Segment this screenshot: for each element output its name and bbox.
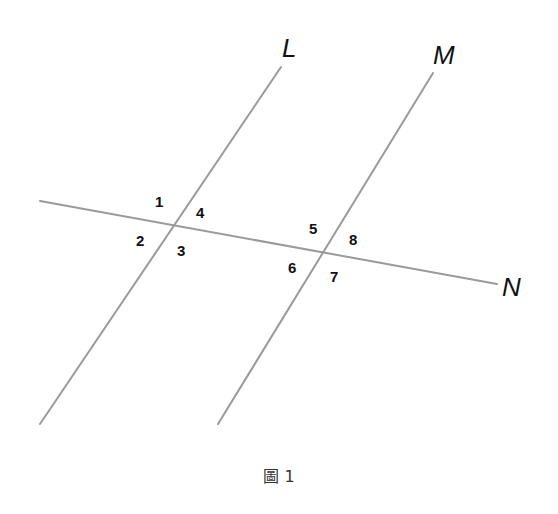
line-label-N: N — [502, 272, 521, 302]
line-label-M: M — [433, 40, 455, 70]
angle-label-7: 7 — [330, 268, 338, 285]
line-N — [40, 201, 497, 284]
angle-label-1: 1 — [155, 193, 163, 210]
parallel-lines-diagram: L M N 1 2 3 4 5 6 7 8 — [0, 0, 558, 514]
angle-label-6: 6 — [288, 259, 296, 276]
line-label-L: L — [282, 33, 296, 63]
angle-label-8: 8 — [349, 231, 357, 248]
angle-label-4: 4 — [196, 204, 205, 221]
angle-label-5: 5 — [309, 220, 317, 237]
angle-label-2: 2 — [136, 232, 144, 249]
angle-label-3: 3 — [177, 242, 185, 259]
figure-caption: 圖 1 — [0, 463, 558, 487]
line-L — [40, 67, 281, 424]
line-M — [218, 73, 433, 424]
